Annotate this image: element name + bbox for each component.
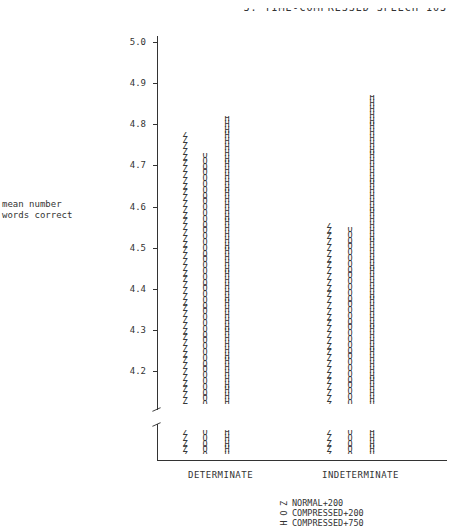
- y-tick-label: 4.4: [110, 284, 146, 294]
- legend-label: COMPRESSED+750: [292, 518, 364, 528]
- legend-label: NORMAL+200: [292, 498, 343, 508]
- y-tick-label: 4.2: [110, 366, 146, 376]
- legend-item: O COMPRESSED+200: [278, 508, 364, 518]
- y-tick: [153, 124, 157, 125]
- y-axis-label-line1: mean number: [2, 199, 72, 210]
- y-tick-label: 4.9: [110, 78, 146, 88]
- bar-compressed-750-determinate: HHHHHHHHHHHHHHHHHHHHHHHHHHHHHHHHHHHHHHHH…: [222, 116, 232, 404]
- y-tick: [153, 165, 157, 166]
- bar-compressed-200-indeterminate: OOOOOOOOOOOOOOOOOOOOOOOOOOOOOOOOO: [345, 227, 355, 404]
- legend-glyph-o: O: [278, 508, 288, 518]
- x-axis-line: [157, 460, 447, 461]
- bar-stub: HHHHH: [367, 430, 377, 454]
- y-tick: [153, 289, 157, 290]
- bar-stub: OOOOO: [345, 430, 355, 454]
- y-axis-label: mean number words correct: [2, 199, 72, 221]
- y-axis-line: [157, 36, 158, 410]
- legend-item: Z NORMAL+200: [278, 498, 364, 508]
- bar-stub: OOOOO: [200, 430, 210, 454]
- bar-compressed-200-determinate: OOOOOOOOOOOOOOOOOOOOOOOOOOOOOOOOOOOOOOOO…: [200, 153, 210, 404]
- y-tick: [153, 207, 157, 208]
- category-label-determinate: DETERMINATE: [188, 470, 253, 480]
- bar-normal-200-determinate: ZZZZZZZZZZZZZZZZZZZZZZZZZZZZZZZZZZZZZZZZ…: [180, 132, 190, 404]
- axis-break-mark: [152, 407, 161, 412]
- y-tick: [153, 83, 157, 84]
- bar-stub: HHHHH: [222, 430, 232, 454]
- bar-stub: ZZZZZ: [180, 430, 190, 454]
- y-tick: [153, 371, 157, 372]
- legend: Z NORMAL+200 O COMPRESSED+200 H COMPRESS…: [278, 498, 364, 528]
- y-tick: [153, 42, 157, 43]
- y-axis-lower-segment: [157, 424, 158, 461]
- y-tick-label: 4.7: [110, 160, 146, 170]
- y-tick-label: 5.0: [110, 37, 146, 47]
- y-tick: [153, 330, 157, 331]
- y-axis-label-line2: words correct: [2, 210, 72, 221]
- legend-item: H COMPRESSED+750: [278, 518, 364, 528]
- legend-label: COMPRESSED+200: [292, 508, 364, 518]
- legend-glyph-z: Z: [278, 498, 288, 508]
- y-tick-label: 4.8: [110, 119, 146, 129]
- bar-normal-200-indeterminate: ZZZZZZZZZZZZZZZZZZZZZZZZZZZZZZZZZ: [324, 223, 334, 404]
- bar-stub: ZZZZZ: [324, 430, 334, 454]
- y-tick-label: 4.3: [110, 325, 146, 335]
- y-tick-label: 4.5: [110, 243, 146, 253]
- page-header: 3. TIME-COMPRESSED SPEECH 103: [243, 2, 447, 13]
- y-tick: [153, 248, 157, 249]
- legend-glyph-h: H: [278, 518, 288, 528]
- category-label-indeterminate: INDETERMINATE: [322, 470, 399, 480]
- bar-compressed-750-indeterminate: HHHHHHHHHHHHHHHHHHHHHHHHHHHHHHHHHHHHHHHH…: [367, 95, 377, 404]
- y-tick-label: 4.6: [110, 202, 146, 212]
